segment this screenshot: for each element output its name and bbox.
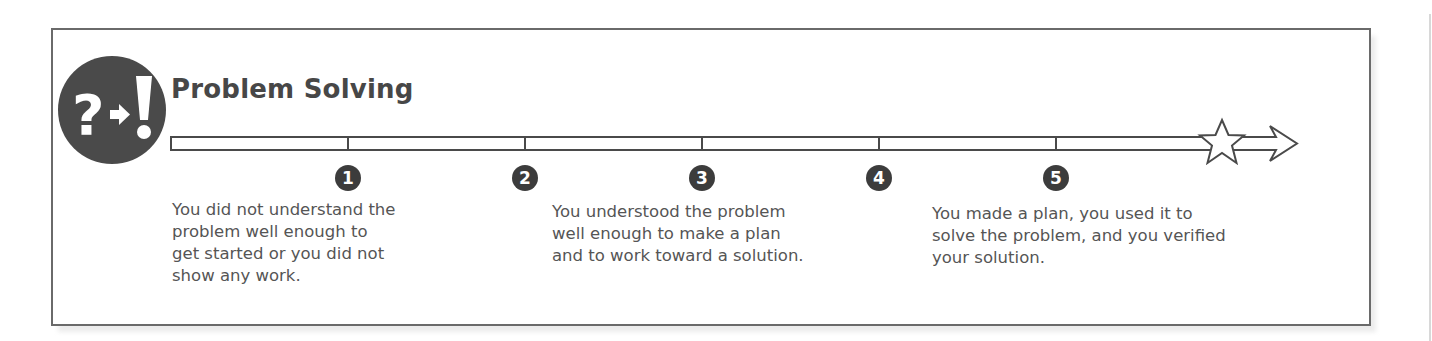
step-badge-2: 2 (512, 165, 538, 191)
description-line: your solution. (932, 247, 1226, 269)
scoring-scale-arrow (0, 0, 1432, 341)
step-badge-1: 1 (335, 165, 361, 191)
star-icon (1200, 120, 1244, 163)
description-line: You did not understand the (172, 199, 395, 221)
description-low: You did not understand the problem well … (172, 199, 395, 287)
description-line: well enough to make a plan (552, 223, 804, 245)
step-badge-5: 5 (1043, 165, 1069, 191)
description-line: show any work. (172, 265, 395, 287)
description-high: You made a plan, you used it to solve th… (932, 203, 1226, 269)
description-line: get started or you did not (172, 243, 395, 265)
step-badge-4: 4 (866, 165, 892, 191)
step-badge-3: 3 (689, 165, 715, 191)
description-line: You understood the problem (552, 201, 804, 223)
description-line: problem well enough to (172, 221, 395, 243)
description-mid: You understood the problem well enough t… (552, 201, 804, 267)
description-line: and to work toward a solution. (552, 245, 804, 267)
description-line: solve the problem, and you verified (932, 225, 1226, 247)
description-line: You made a plan, you used it to (932, 203, 1226, 225)
